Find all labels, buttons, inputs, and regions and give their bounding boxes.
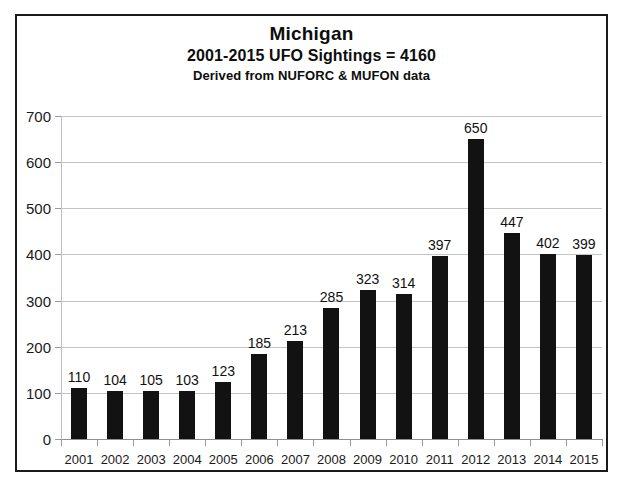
bar-group: 1032004 xyxy=(169,116,205,439)
bar-group: 6502012 xyxy=(458,116,494,439)
x-axis-label: 2013 xyxy=(497,452,526,467)
bar[interactable] xyxy=(251,354,267,439)
bar-value-label: 399 xyxy=(572,236,595,252)
bar[interactable] xyxy=(540,254,556,439)
x-axis-label: 2011 xyxy=(426,452,454,467)
x-axis-label: 2004 xyxy=(173,452,202,467)
bar[interactable] xyxy=(179,391,195,439)
bar[interactable] xyxy=(287,341,303,439)
y-axis-label: 700 xyxy=(26,108,51,125)
x-axis-label: 2008 xyxy=(317,452,346,467)
x-axis-tick xyxy=(530,439,531,446)
bar-group: 3142010 xyxy=(386,116,422,439)
bar-group: 4472013 xyxy=(494,116,530,439)
bar[interactable] xyxy=(468,139,484,439)
bar[interactable] xyxy=(432,256,448,439)
chart-source-note: Derived from NUFORC & MUFON data xyxy=(17,66,606,85)
bar-group: 2852008 xyxy=(313,116,349,439)
x-axis-label: 2002 xyxy=(101,452,130,467)
y-axis-label: 600 xyxy=(26,154,51,171)
x-axis-tick xyxy=(241,439,242,446)
plot-area: 0100200300400500600700 11020011042002105… xyxy=(61,116,602,439)
x-axis-label: 2003 xyxy=(137,452,166,467)
chart-title-block: Michigan 2001-2015 UFO Sightings = 4160 … xyxy=(17,22,606,85)
bar-value-label: 314 xyxy=(392,275,415,291)
x-axis-label: 2015 xyxy=(569,452,598,467)
x-axis-tick xyxy=(602,439,603,446)
x-axis-tick xyxy=(277,439,278,446)
y-axis-label: 400 xyxy=(26,246,51,263)
bar-group: 3992015 xyxy=(566,116,602,439)
y-axis-label: 300 xyxy=(26,292,51,309)
y-axis-label: 100 xyxy=(26,384,51,401)
y-axis-label: 200 xyxy=(26,338,51,355)
x-axis-label: 2012 xyxy=(461,452,490,467)
bar-group: 4022014 xyxy=(530,116,566,439)
x-axis-label: 2006 xyxy=(245,452,274,467)
chart-frame: Michigan 2001-2015 UFO Sightings = 4160 … xyxy=(15,14,608,472)
bar-value-label: 285 xyxy=(320,289,343,305)
bar-group: 1852006 xyxy=(241,116,277,439)
x-axis-tick xyxy=(422,439,423,446)
x-axis-tick xyxy=(61,439,62,446)
bar[interactable] xyxy=(215,382,231,439)
bar[interactable] xyxy=(504,233,520,439)
bar-value-label: 185 xyxy=(248,335,271,351)
gridline xyxy=(61,439,602,440)
y-axis-label: 500 xyxy=(26,200,51,217)
bar-value-label: 447 xyxy=(500,214,523,230)
bar[interactable] xyxy=(323,308,339,440)
bar[interactable] xyxy=(576,255,592,439)
x-axis-tick xyxy=(313,439,314,446)
bar-group: 3232009 xyxy=(350,116,386,439)
bar-value-label: 213 xyxy=(284,322,307,338)
x-axis-tick xyxy=(494,439,495,446)
bar-value-label: 104 xyxy=(103,372,126,388)
x-axis-tick xyxy=(205,439,206,446)
x-axis-tick xyxy=(169,439,170,446)
x-axis-tick xyxy=(386,439,387,446)
x-axis-label: 2007 xyxy=(281,452,310,467)
x-axis-tick xyxy=(350,439,351,446)
bar[interactable] xyxy=(107,391,123,439)
x-axis-tick xyxy=(97,439,98,446)
x-axis-tick xyxy=(133,439,134,446)
chart-subtitle: 2001-2015 UFO Sightings = 4160 xyxy=(17,45,606,66)
bar-group: 2132007 xyxy=(277,116,313,439)
x-axis-label: 2014 xyxy=(533,452,562,467)
bar-value-label: 323 xyxy=(356,271,379,287)
x-axis-label: 2005 xyxy=(209,452,238,467)
x-axis-tick xyxy=(566,439,567,446)
bar[interactable] xyxy=(71,388,87,439)
bar-value-label: 650 xyxy=(464,120,487,136)
x-axis-label: 2010 xyxy=(389,452,418,467)
chart-title: Michigan xyxy=(17,22,606,45)
bar-group: 1232005 xyxy=(205,116,241,439)
bar-value-label: 397 xyxy=(428,237,451,253)
bar[interactable] xyxy=(360,290,376,439)
x-axis-label: 2009 xyxy=(353,452,382,467)
bar-group: 1102001 xyxy=(61,116,97,439)
bar-value-label: 123 xyxy=(212,363,235,379)
y-axis-label: 0 xyxy=(43,431,51,448)
x-axis-tick xyxy=(458,439,459,446)
bar-value-label: 402 xyxy=(536,235,559,251)
bar-group: 1052003 xyxy=(133,116,169,439)
bar[interactable] xyxy=(143,391,159,439)
bar-value-label: 110 xyxy=(68,369,90,385)
bar-group: 1042002 xyxy=(97,116,133,439)
bar-value-label: 105 xyxy=(139,372,162,388)
x-axis-label: 2001 xyxy=(65,452,94,467)
bar-group: 3972011 xyxy=(422,116,458,439)
bar[interactable] xyxy=(396,294,412,439)
bar-value-label: 103 xyxy=(176,372,199,388)
